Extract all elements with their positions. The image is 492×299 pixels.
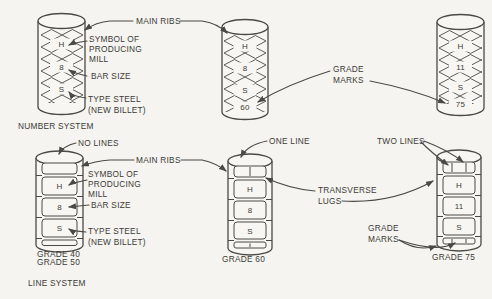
bar-size-label-bottom: BAR SIZE [91, 200, 131, 210]
mill-symbol-mark: H [247, 185, 253, 194]
rebar-line-middle: H 8 S [228, 154, 272, 255]
symbol-label-bottom-line2: PRODUCING [88, 179, 141, 189]
one-line-label: ONE LINE [269, 136, 310, 146]
steel-type-mark: S [242, 86, 248, 95]
leader-main-ribs-top-right [180, 21, 227, 33]
steel-type-mark: S [456, 223, 462, 232]
mill-symbol-mark: H [59, 40, 65, 49]
main-ribs-label-bottom: MAIN RIBS [136, 155, 181, 165]
steel-type-mark: S [59, 85, 65, 94]
mill-symbol-mark: H [57, 182, 63, 191]
leader-grade-marks-top-left [258, 71, 330, 102]
type-steel-label-top-line2: (NEW BILLET) [88, 105, 146, 115]
grade-mark: 60 [240, 103, 250, 112]
mill-symbol-mark: H [242, 42, 248, 51]
mill-symbol-mark: H [458, 42, 464, 51]
two-lines-label: TWO LINES [377, 136, 425, 146]
bar-size-mark: 8 [59, 63, 64, 72]
steel-type-mark: S [247, 227, 253, 236]
symbol-label-top-line1: SYMBOL OF [89, 34, 139, 44]
grade-50-caption: GRADE 50 [37, 257, 80, 267]
bar-top-face [437, 15, 484, 30]
rebar-line-right: H 11 S [437, 150, 481, 251]
bar-size-mark: 11 [455, 202, 464, 211]
leader-main-ribs-bottom-right [181, 160, 226, 171]
bar-top-face [222, 20, 268, 35]
rebar-number-left: H 8 S [38, 14, 85, 115]
grade-marks-label-bottom-line2: MARKS [368, 234, 399, 244]
rebar-marking-diagram: H 8 S H 8 S 60 H 11 S 75 [0, 0, 492, 299]
symbol-label-top-line2: PRODUCING [89, 44, 142, 54]
diagram-svg: H 8 S H 8 S 60 H 11 S 75 [0, 0, 492, 299]
leader-transverse-lugs-left [266, 178, 315, 191]
transverse-lugs-label-line2: LUGS [318, 196, 342, 206]
no-lines-label: NO LINES [78, 138, 119, 148]
grade-marks-label-top-line1: GRADE [333, 64, 364, 74]
leader-main-ribs-top-left [85, 21, 133, 30]
leader-main-ribs-bottom-left [82, 160, 134, 166]
bar-size-label-top: BAR SIZE [91, 71, 131, 81]
type-steel-label-bottom-line2: (NEW BILLET) [88, 237, 146, 247]
bar-size-mark: 11 [456, 63, 465, 72]
steel-type-mark: S [57, 224, 63, 233]
grade-75-caption: GRADE 75 [432, 252, 475, 262]
steel-type-mark: S [458, 83, 464, 92]
mill-symbol-mark: H [456, 181, 462, 190]
symbol-label-bottom-line3: MILL [88, 189, 108, 199]
leader-grade-marks-top-right [370, 81, 445, 103]
type-steel-label-top-line1: TYPE STEEL [88, 94, 141, 104]
bar-size-mark: 8 [248, 206, 253, 215]
rebar-number-middle: H 8 S 60 [222, 20, 268, 120]
grade-60-caption: GRADE 60 [222, 254, 265, 264]
rebar-number-right: H 11 S 75 [437, 15, 484, 116]
main-ribs-label-top: MAIN RIBS [136, 16, 181, 26]
bar-size-mark: 8 [57, 203, 62, 212]
symbol-label-top-line3: MILL [89, 54, 109, 64]
type-steel-label-bottom-line1: TYPE STEEL [88, 226, 141, 236]
transverse-lugs-label-line1: TRANSVERSE [318, 185, 377, 195]
bar-top-face [38, 14, 85, 29]
grade-marks-label-top-line2: MARKS [333, 75, 364, 85]
bar-size-mark: 8 [243, 64, 248, 73]
rebar-line-left: H 8 S [36, 151, 83, 252]
grade-mark: 75 [456, 100, 466, 109]
grade-marks-label-bottom-line1: GRADE [368, 223, 399, 233]
line-system-title: LINE SYSTEM [28, 278, 86, 288]
symbol-label-bottom-line1: SYMBOL OF [88, 169, 138, 179]
number-system-title: NUMBER SYSTEM [18, 121, 94, 131]
